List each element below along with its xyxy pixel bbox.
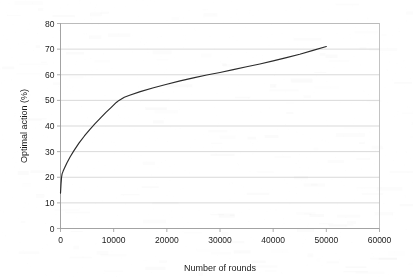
- x-axis-tick-labels-group: 0100002000030000400005000060000: [58, 235, 391, 245]
- y-axis-tick-label: 80: [45, 19, 55, 29]
- x-axis-tick-label: 40000: [261, 235, 285, 245]
- y-axis-tick-label: 10: [45, 198, 55, 208]
- x-axis-tick-label: 60000: [368, 235, 392, 245]
- data-series-line: [61, 47, 327, 194]
- y-axis-title: Optimal action (%): [19, 89, 29, 163]
- y-axis-tick-label: 50: [45, 95, 55, 105]
- x-axis-ticks-group: [61, 229, 380, 233]
- y-axis-tick-label: 0: [50, 224, 55, 234]
- y-axis-tick-label: 40: [45, 121, 55, 131]
- x-axis-tick-label: 50000: [315, 235, 339, 245]
- x-axis-tick-label: 30000: [208, 235, 232, 245]
- y-axis-tick-label: 20: [45, 172, 55, 182]
- y-axis-tick-label: 30: [45, 147, 55, 157]
- x-axis-tick-label: 10000: [102, 235, 126, 245]
- x-axis-tick-label: 0: [58, 235, 63, 245]
- x-axis-tick-label: 20000: [155, 235, 179, 245]
- y-axis-tick-label: 70: [45, 44, 55, 54]
- y-axis-tick-labels-group: 01020304050607080: [45, 19, 60, 234]
- chart-figure: 01020304050607080 0100002000030000400005…: [0, 0, 413, 277]
- y-axis-tick-label: 60: [45, 70, 55, 80]
- x-axis-title: Number of rounds: [184, 263, 257, 273]
- gridlines-group: [61, 24, 380, 203]
